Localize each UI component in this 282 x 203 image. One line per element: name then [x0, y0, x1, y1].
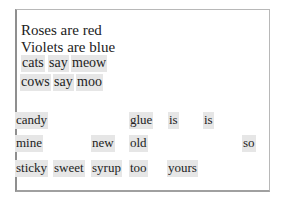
word-tile-is-2[interactable]: is [203, 112, 214, 129]
placed-word-moo[interactable]: moo [76, 74, 103, 91]
word-tile-new[interactable]: new [91, 135, 115, 152]
word-tile-mine[interactable]: mine [15, 135, 43, 152]
word-tile-so[interactable]: so [242, 135, 256, 152]
word-tile-old[interactable]: old [129, 135, 148, 152]
placed-word-cows[interactable]: cows [20, 74, 51, 91]
word-tile-yours[interactable]: yours [167, 160, 198, 177]
word-tile-sweet[interactable]: sweet [53, 160, 85, 177]
placed-word-cats[interactable]: cats [21, 55, 45, 72]
poem-line-1: Roses are red [21, 22, 102, 38]
placed-word-say-2[interactable]: say [53, 74, 74, 91]
placed-word-say[interactable]: say [48, 55, 69, 72]
word-tile-is[interactable]: is [168, 112, 179, 129]
word-tile-too[interactable]: too [129, 160, 148, 177]
poem-line-2: Violets are blue [21, 39, 115, 55]
word-tile-glue[interactable]: glue [129, 112, 153, 129]
word-tile-syrup[interactable]: syrup [91, 160, 122, 177]
word-tile-candy[interactable]: candy [15, 112, 48, 129]
placed-word-meow[interactable]: meow [71, 55, 107, 72]
word-tile-sticky[interactable]: sticky [15, 160, 48, 177]
